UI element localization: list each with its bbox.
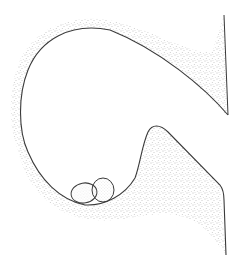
stipple-drawing <box>0 0 246 259</box>
illustration: stippled cross-section drawing of a cup-… <box>0 0 246 259</box>
egg-right <box>92 178 114 202</box>
chamber-lower-wall <box>18 126 226 255</box>
